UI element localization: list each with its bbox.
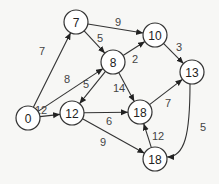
node-n10: 10 bbox=[143, 23, 167, 47]
node-label: 13 bbox=[185, 66, 199, 80]
edge-weight-label: 2 bbox=[132, 53, 138, 65]
edge-weight-label: 6 bbox=[106, 115, 112, 127]
edge-labels-layer: 78125925143697512 bbox=[35, 16, 206, 148]
edge-weight-label: 8 bbox=[64, 73, 70, 85]
node-label: 12 bbox=[65, 107, 79, 121]
edge-weight-label: 5 bbox=[200, 121, 206, 133]
node-n13: 13 bbox=[180, 60, 204, 84]
node-label: 0 bbox=[25, 112, 32, 126]
node-label: 18 bbox=[148, 153, 162, 167]
node-n8: 8 bbox=[101, 50, 125, 74]
edge-weight-label: 5 bbox=[83, 78, 89, 90]
nodes-layer: 0781013121818 bbox=[16, 10, 204, 171]
node-n18b: 18 bbox=[143, 147, 167, 171]
edge-n0-n7 bbox=[33, 33, 70, 108]
edge-weight-label: 7 bbox=[39, 45, 45, 57]
edge-weight-label: 14 bbox=[113, 82, 125, 94]
node-label: 7 bbox=[73, 16, 80, 30]
graph-diagram: 78125925143697512 0781013121818 bbox=[0, 0, 219, 184]
edge-weight-label: 3 bbox=[176, 41, 182, 53]
edge-n12-n18a bbox=[84, 112, 128, 113]
edge-weight-label: 9 bbox=[100, 136, 106, 148]
edge-n18b-n18a bbox=[144, 123, 152, 147]
edge-weight-label: 7 bbox=[165, 97, 171, 109]
node-label: 8 bbox=[110, 56, 117, 70]
node-label: 18 bbox=[133, 106, 147, 120]
edge-n12-n18b bbox=[82, 119, 144, 153]
node-n12: 12 bbox=[60, 101, 84, 125]
node-n18a: 18 bbox=[128, 100, 152, 124]
edge-n13-n18b bbox=[167, 84, 190, 157]
edges-layer bbox=[33, 24, 190, 157]
node-label: 10 bbox=[148, 29, 162, 43]
edge-weight-label: 9 bbox=[115, 16, 121, 28]
node-n7: 7 bbox=[64, 10, 88, 34]
edge-weight-label: 5 bbox=[97, 32, 103, 44]
edge-weight-label: 12 bbox=[152, 130, 164, 142]
node-n0: 0 bbox=[16, 106, 40, 130]
